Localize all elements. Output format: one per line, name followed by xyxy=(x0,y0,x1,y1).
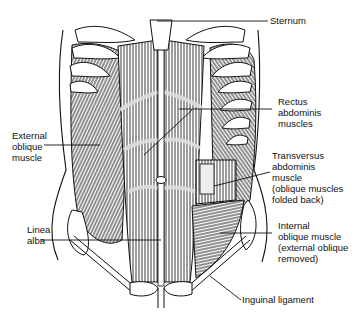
label-internal-oblique: Internal oblique muscle (external obliqu… xyxy=(278,220,348,264)
label-sternum: Sternum xyxy=(270,15,306,26)
rectus-abdominis-left xyxy=(118,40,158,282)
linea-alba xyxy=(158,38,164,286)
label-transversus-abdominis: Transversus abdominis muscle (oblique mu… xyxy=(272,150,343,205)
label-linea-alba: Linea alba xyxy=(27,224,50,246)
sternum-shape xyxy=(150,20,172,50)
label-inguinal-ligament: Inguinal ligament xyxy=(242,294,314,305)
folded-oblique-flap xyxy=(200,164,214,194)
label-rectus-abdominis: Rectus abdominis muscles xyxy=(278,96,321,129)
umbilicus xyxy=(156,177,166,184)
internal-oblique-muscle xyxy=(192,200,244,278)
label-external-oblique: External oblique muscle xyxy=(12,130,47,163)
